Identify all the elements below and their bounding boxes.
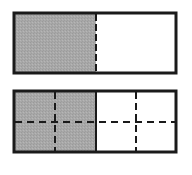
fraction-diagram xyxy=(0,0,192,175)
fraction-bar-halves xyxy=(14,13,176,73)
unshaded-half xyxy=(96,14,175,72)
shaded-half xyxy=(15,14,96,72)
fraction-bar-eighths xyxy=(14,91,176,152)
